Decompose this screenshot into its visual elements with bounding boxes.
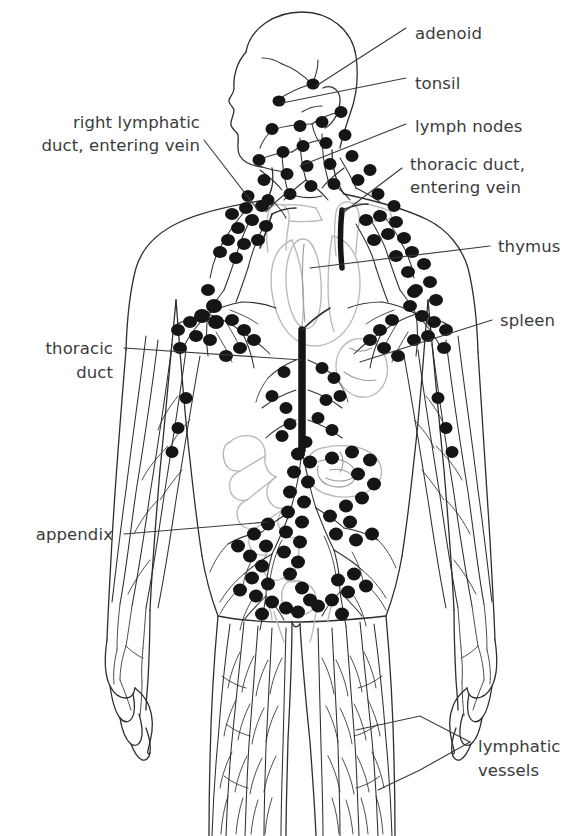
label-lymphatic-vessels-line2: vessels: [478, 761, 539, 780]
lymphatic-system-figure: adenoid tonsil lymph nodes thoracic duct…: [0, 0, 582, 836]
label-lymphatic-vessels-line1: lymphatic: [478, 737, 561, 756]
label-right-lymphatic-duct-line2: duct, entering vein: [41, 136, 200, 155]
label-thoracic-duct-vein-line1: thoracic duct,: [410, 155, 525, 174]
label-thoracic-duct-line2: duct: [76, 363, 113, 382]
label-tonsil: tonsil: [415, 74, 460, 93]
label-right-lymphatic-duct-line1: right lymphatic: [73, 113, 200, 132]
label-thoracic-duct-line1: thoracic: [46, 339, 113, 358]
node-adenoid: [307, 79, 320, 90]
label-spleen: spleen: [500, 311, 555, 330]
label-thymus: thymus: [498, 237, 560, 256]
label-appendix: appendix: [36, 525, 113, 544]
label-adenoid: adenoid: [415, 24, 482, 43]
figure-canvas: adenoid tonsil lymph nodes thoracic duct…: [0, 0, 582, 836]
node-tonsil: [273, 96, 286, 107]
label-lymph-nodes: lymph nodes: [415, 117, 522, 136]
label-thoracic-duct-vein-line2: entering vein: [410, 178, 521, 197]
